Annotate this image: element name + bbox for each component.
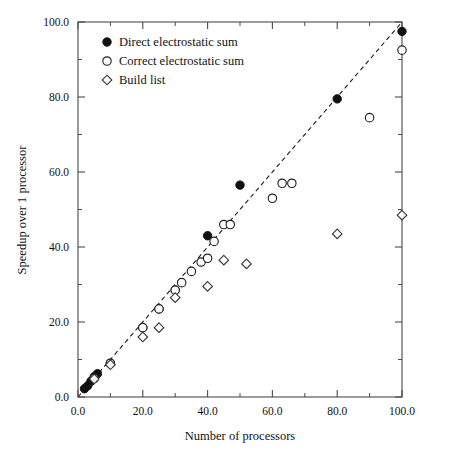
y-tick-label: 20.0: [49, 316, 69, 328]
legend-marker-icon: [103, 38, 111, 46]
data-point: [187, 267, 195, 275]
legend-label: Build list: [119, 73, 166, 87]
legend-entry: Build list: [102, 73, 166, 87]
plot-canvas: 0.020.040.060.080.0100.0 0.020.040.060.0…: [0, 0, 454, 453]
data-point: [268, 194, 276, 202]
legend-marker-icon: [103, 57, 111, 65]
y-axis-title: Speedup over 1 processor: [15, 145, 29, 275]
chart-legend: Direct electrostatic sumCorrect electros…: [102, 35, 244, 87]
data-point: [203, 254, 211, 262]
data-point: [170, 293, 180, 303]
legend-marker-icon: [102, 75, 112, 85]
x-tick-label: 100.0: [389, 405, 415, 417]
legend-label: Direct electrostatic sum: [119, 35, 238, 49]
legend-entry: Correct electrostatic sum: [103, 54, 244, 68]
legend-entry: Direct electrostatic sum: [103, 35, 238, 49]
data-point: [365, 113, 373, 121]
series-3: [89, 210, 406, 383]
x-tick-label: 80.0: [327, 405, 347, 417]
data-point: [138, 332, 148, 342]
data-point: [226, 220, 234, 228]
x-tick-label: 60.0: [262, 405, 282, 417]
x-axis-title: Number of processors: [185, 429, 296, 443]
data-point: [398, 46, 406, 54]
y-tick-label: 100.0: [43, 16, 69, 28]
data-point: [236, 181, 244, 189]
y-tick-label: 80.0: [49, 91, 69, 103]
y-tick-label: 60.0: [49, 166, 69, 178]
data-point: [278, 179, 286, 187]
data-point: [155, 305, 163, 313]
data-point: [210, 237, 218, 245]
x-tick-labels: 0.020.040.060.080.0100.0: [71, 405, 415, 417]
data-point: [177, 278, 185, 286]
legend-label: Correct electrostatic sum: [119, 54, 244, 68]
x-tick-label: 20.0: [133, 405, 153, 417]
data-point: [154, 323, 164, 333]
data-point: [333, 95, 341, 103]
data-point: [139, 323, 147, 331]
data-point: [219, 255, 229, 265]
y-tick-label: 0.0: [55, 391, 70, 403]
x-tick-label: 40.0: [198, 405, 218, 417]
data-point: [332, 229, 342, 239]
x-tick-label: 0.0: [71, 405, 86, 417]
y-tick-label: 40.0: [49, 241, 69, 253]
y-tick-labels: 0.020.040.060.080.0100.0: [43, 16, 69, 403]
data-point: [398, 27, 406, 35]
data-point: [203, 282, 213, 292]
data-point: [397, 210, 407, 220]
series-2: [90, 46, 406, 383]
data-point: [242, 259, 252, 269]
data-point: [288, 179, 296, 187]
speedup-scatter-figure: 0.020.040.060.080.0100.0 0.020.040.060.0…: [0, 0, 454, 453]
